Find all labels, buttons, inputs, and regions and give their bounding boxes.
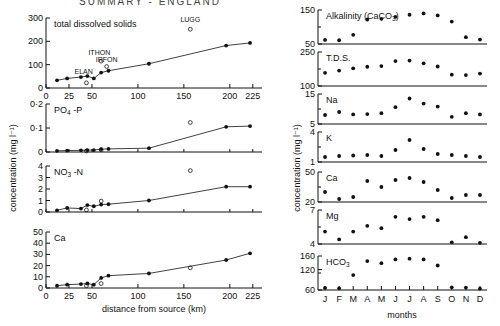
y-tick-label: 4 [38, 161, 43, 171]
series-line [57, 253, 250, 285]
data-point [351, 33, 355, 37]
y-tick-label: 15 [305, 89, 315, 99]
data-point [147, 272, 151, 276]
y-tick-label: 10 [33, 272, 43, 282]
x-tick-label: 225 [245, 91, 260, 101]
panel-title-left-4-text: Ca [54, 233, 66, 243]
data-point [351, 154, 355, 158]
data-point [422, 61, 426, 65]
data-point [464, 154, 468, 158]
x-tick-label: 50 [87, 91, 97, 101]
panel-title-right-4-text: K [326, 133, 332, 143]
data-point [323, 71, 327, 75]
data-point [422, 180, 426, 184]
data-point-open [99, 282, 103, 286]
y-tick-label: 1 [38, 196, 43, 206]
data-point [464, 193, 468, 197]
panel-right-1: 50150Alkalinity (CaCO3) [300, 5, 487, 49]
data-point [248, 124, 252, 128]
y-tick-label: 7 [310, 205, 315, 215]
x-tick-label-month: J [407, 294, 412, 304]
data-point [55, 208, 59, 212]
data-point [422, 12, 426, 16]
y-tick-label: 0 [38, 207, 43, 217]
data-point [79, 282, 83, 286]
data-point [379, 261, 383, 265]
panel-title-right-3: Na [326, 95, 338, 105]
panel-title-right-6-text: Mg [326, 211, 339, 221]
data-point [464, 286, 468, 290]
data-point [65, 283, 69, 287]
panel-title-left-1-text: total dissolved solids [54, 19, 137, 29]
figure-canvas: SUMMARY - ENGLAND 0100200300025501001502… [0, 0, 500, 326]
data-point [422, 102, 426, 106]
data-point [337, 154, 341, 158]
y-tick-label: 20 [33, 261, 43, 271]
x-tick-label-month: M [378, 294, 386, 304]
panel-title-left-3: NO3 -N [54, 167, 83, 178]
data-point [379, 226, 383, 230]
data-point [65, 149, 69, 153]
data-point [323, 155, 327, 159]
data-point [99, 276, 103, 280]
y-tick-label: 250 [300, 47, 315, 57]
data-point [107, 202, 111, 206]
data-point [478, 113, 482, 117]
x-tick-label: 150 [176, 291, 191, 301]
data-point [55, 149, 59, 153]
data-point-open [99, 199, 103, 203]
panel-title-left-2: PO4 -P [54, 105, 82, 116]
x-tick-label-month: O [448, 294, 455, 304]
data-point [224, 185, 228, 189]
data-point [365, 153, 369, 157]
panel-title-right-1-text: Alkalinity (CaCO3) [326, 11, 399, 22]
data-point [92, 77, 96, 81]
data-point [337, 110, 341, 114]
right-yaxis-label: concentration (mg l⁻¹) [292, 124, 302, 211]
data-point [408, 176, 412, 180]
x-tick-label: 225 [245, 291, 260, 301]
data-point [65, 77, 69, 81]
x-tick-label-month: D [477, 294, 484, 304]
data-point [436, 152, 440, 156]
left-xaxis-label: distance from source (km) [102, 304, 206, 314]
y-tick-label: 200 [28, 36, 43, 46]
series-line [57, 187, 250, 211]
y-tick-label: 160 [300, 251, 315, 261]
data-point [92, 283, 96, 287]
panel-left-3: 01234NO3 -N [38, 161, 262, 217]
panel-left-2: 00·10·2PO4 -P [30, 99, 262, 157]
y-tick-label: 300 [28, 13, 43, 23]
data-point [365, 18, 369, 22]
data-point [408, 13, 412, 17]
data-point [323, 286, 327, 290]
data-point-open [188, 169, 192, 173]
x-tick-label: 25 [64, 91, 74, 101]
data-point [379, 64, 383, 68]
panel-title-right-5-text: Ca [326, 173, 338, 183]
y-tick-label: 120 [300, 265, 315, 275]
data-point [351, 195, 355, 199]
data-point [107, 274, 111, 278]
data-point [92, 204, 96, 208]
data-point [422, 215, 426, 219]
data-point [394, 178, 398, 182]
y-tick-label: 4 [310, 127, 315, 137]
panel-title-right-5: Ca [326, 173, 338, 183]
figure-svg: 010020030002550100150200225total dissolv… [0, 0, 500, 326]
data-point [365, 259, 369, 263]
x-tick-label: 100 [130, 291, 145, 301]
data-point [408, 138, 412, 142]
site-label-irfon: IRFON [96, 56, 118, 63]
data-point [351, 273, 355, 277]
data-point [436, 105, 440, 109]
data-point [55, 284, 59, 288]
data-point [99, 71, 103, 75]
x-tick-label: 50 [87, 291, 97, 301]
x-tick-label-month: N [463, 294, 470, 304]
data-point [478, 193, 482, 197]
data-point [337, 286, 341, 290]
panel-right-7: 60120160JFMAMJJASONDHCO3 [300, 251, 487, 304]
data-point [394, 258, 398, 262]
data-point [450, 20, 454, 24]
